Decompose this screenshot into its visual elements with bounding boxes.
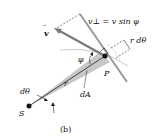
- dashed-rdtheta-1: [111, 40, 124, 48]
- kepler-area-diagram: v⊥ = v sin φ v ⃗ r dθ φ P dθ r dA S (b): [0, 0, 161, 139]
- label-phi: φ: [78, 55, 84, 64]
- label-dA: dA: [80, 90, 91, 99]
- dashed-projection-1: [55, 14, 80, 29]
- dtheta-arrowhead-1-icon: [44, 98, 48, 101]
- point-P: [103, 54, 108, 59]
- label-S: S: [19, 109, 25, 118]
- velocity-arrowhead-icon: [54, 28, 62, 34]
- point-S: [27, 104, 32, 109]
- label-P: P: [103, 69, 110, 78]
- velocity-vector: [58, 30, 105, 56]
- label-v-vector: v: [44, 28, 49, 38]
- vector-arrow-mark: ⃗: [42, 24, 46, 27]
- dtheta-arrowhead-2-icon: [51, 102, 55, 106]
- label-v-perp: v⊥ = v sin φ: [88, 17, 139, 26]
- figure-caption: (b): [60, 125, 71, 134]
- label-r-dtheta: r dθ: [130, 36, 146, 45]
- label-dtheta: dθ: [20, 87, 30, 96]
- phi-arrow-icon: [90, 52, 93, 56]
